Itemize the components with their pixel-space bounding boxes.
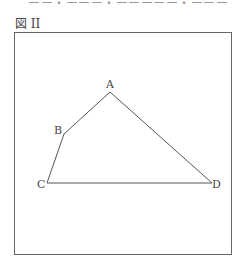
vertex-label-a: A — [105, 78, 115, 91]
vertex-label-b: B — [54, 124, 62, 137]
vertex-label-d: D — [212, 178, 221, 191]
quadrilateral-abcd — [47, 92, 212, 183]
vertex-label-c: C — [37, 178, 45, 191]
quadrilateral-diagram: ABCD — [0, 0, 242, 267]
